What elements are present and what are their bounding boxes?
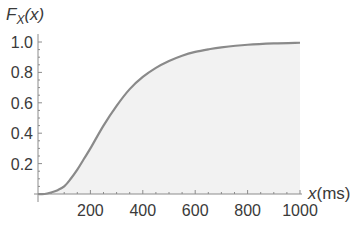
- x-tick-label: 800: [234, 202, 261, 219]
- x-tick-label: 600: [182, 202, 209, 219]
- x-tick-label: 1000: [282, 202, 318, 219]
- y-tick-label: 0.2: [11, 156, 33, 173]
- cdf-chart: 2004006008001000 0.20.40.60.81.0 FX(x) x…: [0, 0, 358, 229]
- y-ticks: 0.20.40.60.81.0: [11, 34, 42, 186]
- y-tick-label: 0.6: [11, 95, 33, 112]
- x-tick-label: 400: [129, 202, 156, 219]
- y-axis-title: FX(x): [6, 5, 44, 27]
- y-tick-label: 0.8: [11, 64, 33, 81]
- y-tick-label: 1.0: [11, 34, 33, 51]
- x-axis-title: x(ms): [307, 184, 350, 203]
- x-tick-label: 200: [77, 202, 104, 219]
- plot-area: [38, 43, 300, 194]
- y-tick-label: 0.4: [11, 125, 33, 142]
